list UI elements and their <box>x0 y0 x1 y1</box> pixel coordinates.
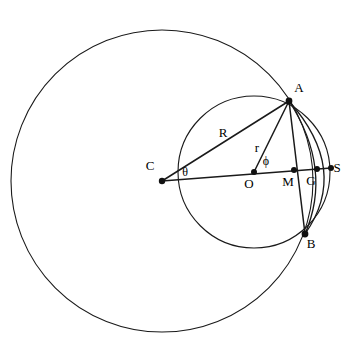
point-label-G: G <box>306 173 315 188</box>
point-label-S: S <box>333 160 340 175</box>
point-dot-C <box>159 178 165 184</box>
geometry-figure: A B C O M G S R r θ ϕ <box>0 0 358 349</box>
diagram-canvas: A B C O M G S R r θ ϕ <box>0 0 358 349</box>
angle-label-phi: ϕ <box>263 154 269 168</box>
point-label-O: O <box>244 176 253 191</box>
point-label-B: B <box>307 236 316 251</box>
point-dot-A <box>286 98 293 105</box>
length-label-r: r <box>255 140 260 155</box>
point-label-M: M <box>282 174 294 189</box>
point-label-A: A <box>294 80 304 95</box>
point-dot-G <box>314 166 320 172</box>
length-label-R: R <box>219 125 228 140</box>
point-dot-M <box>291 167 297 173</box>
point-label-C: C <box>146 158 155 173</box>
angle-label-theta: θ <box>182 165 188 179</box>
segment-A-to-B <box>289 101 305 234</box>
point-dot-O <box>251 169 257 175</box>
